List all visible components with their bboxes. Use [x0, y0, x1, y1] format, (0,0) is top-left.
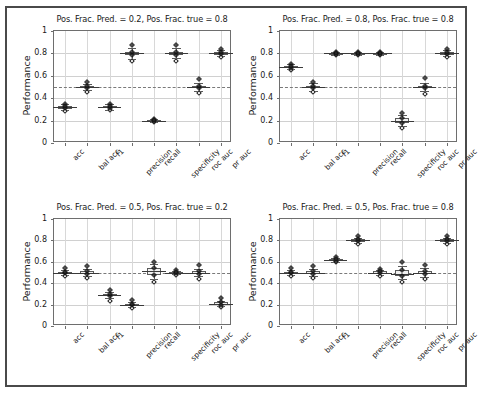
y-tick-label: 0.8 — [19, 235, 47, 244]
y-tick-label: 0.8 — [245, 235, 273, 244]
x-tick-label-pr-auc: pr auc — [456, 330, 479, 353]
x-tick-mark — [132, 326, 133, 329]
x-tick-label-acc: acc — [297, 147, 312, 162]
x-tick-mark — [380, 326, 381, 329]
panel-top-right: Pos. Frac. Pred. = 0.8, Pos. Frac. true … — [245, 14, 463, 202]
x-tick-mark — [199, 143, 200, 146]
x-tick-mark — [336, 326, 337, 329]
panel-bottom-left-title: Pos. Frac. Pred. = 0.5, Pos. Frac. true … — [53, 202, 231, 212]
boxplot-pr-auc — [280, 219, 456, 324]
y-tick-label: 0.2 — [19, 299, 47, 308]
x-tick-mark — [336, 143, 337, 146]
x-tick-label-acc: acc — [71, 330, 86, 345]
x-tick-mark — [313, 326, 314, 329]
y-tick-label: 0.4 — [19, 278, 47, 287]
x-tick-mark — [154, 326, 155, 329]
y-tick-label: 1 — [245, 214, 273, 223]
x-tick-mark — [402, 326, 403, 329]
y-tick-label: 0 — [19, 321, 47, 330]
x-tick-mark — [176, 326, 177, 329]
x-tick-mark — [221, 326, 222, 329]
x-tick-mark — [358, 326, 359, 329]
y-tick-label: 1 — [19, 26, 47, 35]
x-tick-mark — [425, 326, 426, 329]
panel-top-left: Pos. Frac. Pred. = 0.2, Pos. Frac. true … — [19, 14, 237, 202]
y-tick-label: 0.4 — [245, 93, 273, 102]
x-tick-mark — [132, 143, 133, 146]
panel-bottom-right-ylabel: Performance — [247, 238, 258, 304]
panel-top-right-ylabel: Performance — [247, 53, 258, 119]
x-tick-mark — [87, 326, 88, 329]
y-tick-label: 0.2 — [245, 299, 273, 308]
y-tick-label: 0.4 — [245, 278, 273, 287]
panel-top-left-ylabel: Performance — [21, 53, 32, 119]
y-tick-label: 0.2 — [245, 115, 273, 124]
x-tick-mark — [199, 326, 200, 329]
y-tick-label: 0.6 — [245, 256, 273, 265]
boxplot-pr-auc — [54, 219, 230, 324]
y-tick-label: 0.8 — [245, 48, 273, 57]
x-tick-mark — [110, 326, 111, 329]
x-tick-mark — [110, 143, 111, 146]
panel-bottom-left: Pos. Frac. Pred. = 0.5, Pos. Frac. true … — [19, 202, 237, 385]
y-tick-mark — [277, 143, 280, 144]
panel-top-left-title: Pos. Frac. Pred. = 0.2, Pos. Frac. true … — [53, 14, 231, 24]
x-tick-mark — [176, 143, 177, 146]
x-tick-label-acc: acc — [71, 147, 86, 162]
boxplot-pr-auc — [54, 31, 230, 141]
panel-bottom-right-plot-area — [279, 218, 457, 325]
x-tick-mark — [65, 143, 66, 146]
y-tick-mark — [51, 326, 54, 327]
x-tick-mark — [358, 143, 359, 146]
x-tick-mark — [447, 143, 448, 146]
y-tick-label: 0.4 — [19, 93, 47, 102]
y-tick-label: 0.6 — [19, 256, 47, 265]
y-tick-label: 0.8 — [19, 48, 47, 57]
y-tick-label: 1 — [245, 26, 273, 35]
y-tick-label: 1 — [19, 214, 47, 223]
y-tick-label: 0 — [245, 321, 273, 330]
panel-top-right-title: Pos. Frac. Pred. = 0.8, Pos. Frac. true … — [279, 14, 457, 24]
x-tick-mark — [291, 326, 292, 329]
panel-bottom-right: Pos. Frac. Pred. = 0.5, Pos. Frac. true … — [245, 202, 463, 385]
x-tick-label-pr-auc: pr auc — [456, 147, 479, 170]
x-tick-mark — [291, 143, 292, 146]
boxplot-pr-auc — [280, 31, 456, 141]
panel-top-left-plot-area — [53, 30, 231, 142]
panel-bottom-left-plot-area — [53, 218, 231, 325]
y-tick-mark — [277, 326, 280, 327]
x-tick-mark — [221, 143, 222, 146]
panel-bottom-right-title: Pos. Frac. Pred. = 0.5, Pos. Frac. true … — [279, 202, 457, 212]
x-tick-mark — [154, 143, 155, 146]
x-tick-mark — [425, 143, 426, 146]
x-tick-mark — [380, 143, 381, 146]
x-tick-mark — [402, 143, 403, 146]
y-tick-label: 0 — [19, 138, 47, 147]
figure-frame: Pos. Frac. Pred. = 0.2, Pos. Frac. true … — [5, 6, 467, 387]
y-tick-label: 0 — [245, 138, 273, 147]
y-tick-mark — [51, 143, 54, 144]
x-tick-mark — [87, 143, 88, 146]
x-tick-label-acc: acc — [297, 330, 312, 345]
y-tick-label: 0.2 — [19, 115, 47, 124]
panel-bottom-left-ylabel: Performance — [21, 238, 32, 304]
x-tick-mark — [65, 326, 66, 329]
panel-top-right-plot-area — [279, 30, 457, 142]
x-tick-mark — [313, 143, 314, 146]
y-tick-label: 0.6 — [19, 70, 47, 79]
y-tick-label: 0.6 — [245, 70, 273, 79]
x-tick-mark — [447, 326, 448, 329]
